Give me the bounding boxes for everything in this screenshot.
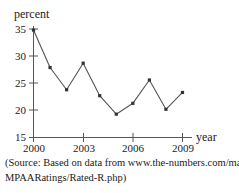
data-point-2000 [32,28,35,31]
data-point-2003 [82,62,85,65]
data-point-2009 [181,91,184,94]
figure: percent year 35 30 25 20 15 2000 2003 20… [0,0,239,193]
data-point-2004 [98,94,101,97]
y-tick-label-25: 25 [10,78,26,89]
source-note: (Source: Based on data from www.the-numb… [5,155,237,185]
axis-lines [34,26,193,138]
y-axis-title: percent [14,8,49,20]
data-line [34,30,183,114]
data-point-2005 [115,113,118,116]
data-point-2002 [65,88,68,91]
y-tick-label-30: 30 [10,51,26,62]
data-point-2007 [148,78,151,81]
data-point-2006 [131,102,134,105]
x-tick-label-2000: 2000 [17,143,51,154]
data-point-markers [32,28,184,115]
x-tick-label-2006: 2006 [116,143,150,154]
x-tick-label-2003: 2003 [67,143,101,154]
y-tick-label-20: 20 [10,105,26,116]
x-axis-title: year [196,131,217,143]
source-line-2: MPAARatings/Rated-R.php) [5,170,237,185]
x-tick-label-2009: 2009 [166,143,200,154]
source-line-1: (Source: Based on data from www.the-numb… [5,155,237,170]
data-point-2001 [48,66,51,69]
y-tick-label-35: 35 [10,24,26,35]
chart-plot-area: percent year 35 30 25 20 15 2000 2003 20… [0,0,239,152]
data-point-2008 [164,108,167,111]
